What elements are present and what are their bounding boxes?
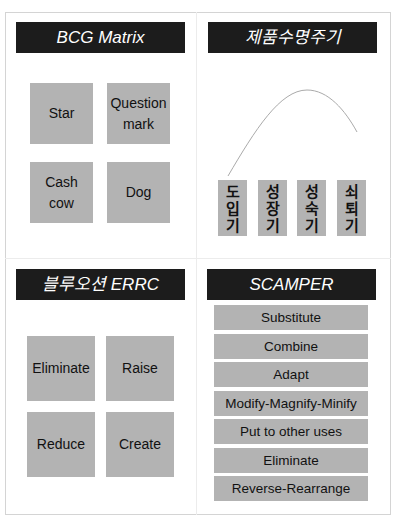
plc-stage-decline: 쇠 퇴 기 [337,180,366,236]
stage-char: 기 [305,217,319,234]
errc-cell-label: Create [119,434,161,454]
stage-char: 도 [226,183,240,200]
stage-char: 기 [226,217,240,234]
scamper-item-eliminate: Eliminate [214,448,368,473]
scamper-title: SCAMPER [207,269,376,300]
errc-cell-label: Eliminate [32,358,90,378]
stage-char: 숙 [305,200,319,217]
plc-stage-maturity: 성 숙 기 [297,180,326,236]
plc-stage-introduction: 도 입 기 [218,180,247,236]
errc-cell-label: Reduce [37,434,85,454]
stage-char: 입 [226,200,240,217]
errc-cell-create: Create [106,412,174,477]
plc-stage-growth: 성 장 기 [258,180,287,236]
errc-cell-eliminate: Eliminate [27,336,95,401]
scamper-item-adapt: Adapt [214,362,368,387]
errc-cell-label: Raise [122,358,158,378]
stage-char: 장 [266,200,280,217]
stage-char: 쇠 [345,183,359,200]
stage-char: 성 [305,183,319,200]
scamper-item-reverse: Reverse-Rearrange [214,476,368,501]
scamper-item-combine: Combine [214,334,368,359]
errc-title: 블루오션 ERRC [16,269,185,300]
scamper-item-substitute: Substitute [214,305,368,330]
scamper-item-modify: Modify-Magnify-Minify [214,391,368,416]
errc-cell-reduce: Reduce [27,412,95,477]
scamper-item-put-to-other-uses: Put to other uses [214,419,368,444]
stage-char: 기 [345,217,359,234]
errc-cell-raise: Raise [106,336,174,401]
stage-char: 기 [266,217,280,234]
stage-char: 퇴 [345,200,359,217]
stage-char: 성 [266,183,280,200]
